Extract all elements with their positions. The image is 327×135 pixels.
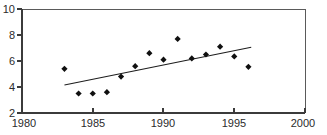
data-point	[245, 64, 251, 70]
x-tick-label: 1990	[151, 117, 175, 129]
y-tick-label: 4	[9, 81, 15, 93]
x-tick-group	[22, 108, 305, 113]
data-point	[76, 90, 82, 96]
x-tick-label: 1985	[81, 117, 105, 129]
data-point	[189, 55, 195, 61]
data-point	[132, 63, 138, 69]
data-point	[175, 36, 181, 42]
x-tick-label: 1980	[12, 117, 36, 129]
data-point	[90, 90, 96, 96]
data-point	[146, 50, 152, 56]
data-point	[61, 66, 67, 72]
scatter-plot-svg: 10 8 6 4 2 1980 1985 1990 1995 2000	[0, 0, 327, 135]
data-point	[104, 89, 110, 95]
y-tick-group	[17, 9, 22, 113]
y-tick-labels: 10 8 6 4 2	[3, 3, 15, 119]
chart-figure: 10 8 6 4 2 1980 1985 1990 1995 2000	[0, 0, 327, 135]
y-tick-label: 10	[3, 3, 15, 15]
y-tick-label: 6	[9, 55, 15, 67]
x-tick-labels: 1980 1985 1990 1995 2000	[12, 117, 315, 129]
y-tick-label: 8	[9, 29, 15, 41]
data-point	[160, 57, 166, 63]
data-point	[231, 53, 237, 59]
data-point	[217, 44, 223, 50]
x-tick-label: 2000	[291, 117, 315, 129]
trend-line	[64, 47, 251, 85]
x-tick-label: 1995	[222, 117, 246, 129]
